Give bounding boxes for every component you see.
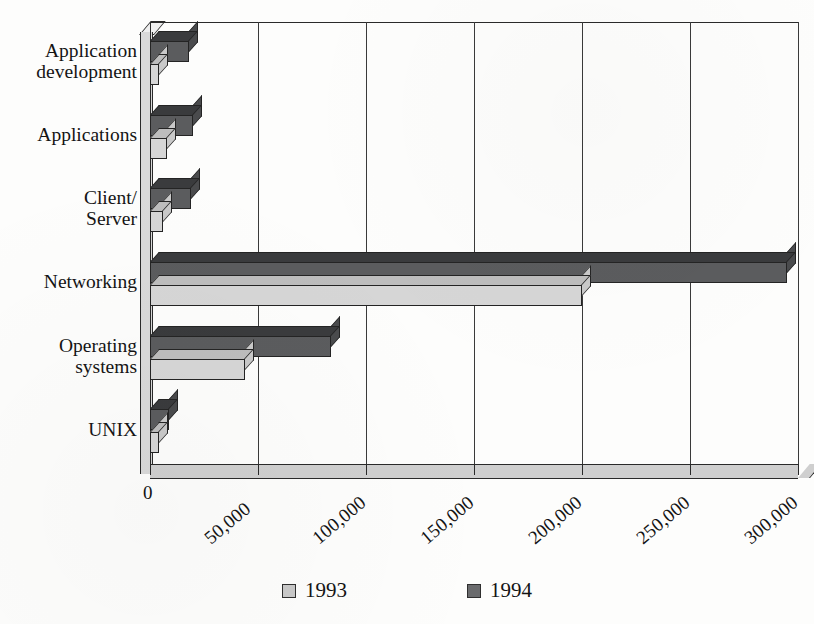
category-label-4: Networking — [0, 271, 137, 292]
legend-item-1994[interactable]: 1994 — [467, 578, 532, 603]
category-label-5: Operating systems — [0, 335, 137, 377]
x-tick-label: 0 — [143, 482, 153, 504]
chart-legend: 1993 1994 — [0, 578, 814, 603]
bar-1993-1 — [150, 64, 159, 85]
category-label-2: Applications — [0, 124, 137, 145]
y-axis-line — [150, 22, 151, 464]
x-tick-label: 100,000 — [308, 491, 371, 548]
category-label-1: Application development — [0, 40, 137, 82]
category-label-6: UNIX — [0, 419, 137, 440]
legend-label-1994: 1994 — [490, 578, 532, 603]
bar-1993-3 — [150, 211, 163, 232]
bar-front-face — [150, 359, 245, 380]
bar-front-face — [150, 211, 163, 232]
x-tick-label: 150,000 — [416, 491, 479, 548]
bar-top-face — [150, 326, 340, 336]
legend-swatch-1993-icon — [282, 584, 296, 598]
x-tick-mark — [258, 464, 259, 475]
x-tick-mark — [366, 464, 367, 475]
x-tick-mark — [582, 464, 583, 475]
paper-texture-overlay — [0, 0, 814, 624]
x-tick-label: 200,000 — [524, 491, 587, 548]
bar-front-face — [150, 138, 167, 159]
bar-1993-2 — [150, 138, 167, 159]
gridline — [798, 22, 799, 464]
gridline — [366, 22, 367, 464]
gridline — [690, 22, 691, 464]
bar-front-face — [150, 285, 582, 306]
x-tick-label: 50,000 — [200, 498, 255, 549]
bar-top-face — [150, 252, 796, 262]
x-tick-label: 250,000 — [632, 491, 695, 548]
x-tick-label: 300,000 — [740, 491, 803, 548]
legend-label-1993: 1993 — [305, 578, 347, 603]
bar-1993-4 — [150, 285, 582, 306]
bar-1993-6 — [150, 432, 159, 453]
gridline — [258, 22, 259, 464]
x-tick-mark — [474, 464, 475, 475]
legend-item-1993[interactable]: 1993 — [282, 578, 347, 603]
x-tick-mark — [690, 464, 691, 475]
gridline — [582, 22, 583, 464]
x-tick-mark — [798, 464, 799, 475]
bar-1993-5 — [150, 359, 245, 380]
bar-top-face — [150, 275, 591, 285]
bar-front-face — [150, 432, 159, 453]
bar-top-face — [150, 349, 254, 359]
category-label-3: Client/ Server — [0, 187, 137, 229]
bar-top-face — [150, 105, 202, 115]
bar-front-face — [150, 64, 159, 85]
x-tick-mark — [150, 464, 151, 475]
bar-chart: Application developmentApplicationsClien… — [0, 0, 814, 624]
gridline — [474, 22, 475, 464]
legend-swatch-1994-icon — [467, 584, 481, 598]
